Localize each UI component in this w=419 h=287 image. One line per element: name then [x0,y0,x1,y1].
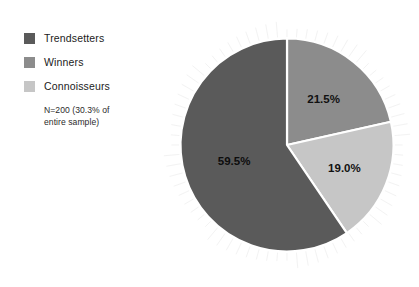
legend-swatch-trendsetters [24,33,35,44]
sample-size-line-2: entire sample) [44,116,174,128]
slice-value-trendsetters: 59.5% [218,155,251,167]
sample-size-annotation: N=200 (30.3% of entire sample) [44,104,174,128]
legend-label-connoisseurs: Connoisseurs [44,81,110,92]
sample-size-line-1: N=200 (30.3% of [44,104,174,116]
pie-slices [180,39,393,252]
pie-chart-figure: Trendsetters Winners Connoisseurs N=200 … [0,0,419,287]
pie-graphic: 21.5%19.0%59.5% [180,38,394,252]
legend-label-winners: Winners [44,57,84,68]
pie-svg: 21.5%19.0%59.5% [180,38,394,252]
legend-item-connoisseurs[interactable]: Connoisseurs [24,75,174,97]
legend-item-trendsetters[interactable]: Trendsetters [24,27,174,49]
legend-swatch-winners [24,57,35,68]
slice-value-winners: 21.5% [307,93,340,105]
legend-label-trendsetters: Trendsetters [44,33,104,44]
legend-swatch-connoisseurs [24,81,35,92]
slice-value-connoisseurs: 19.0% [328,162,361,174]
chart-legend: Trendsetters Winners Connoisseurs N=200 … [24,27,174,128]
legend-item-winners[interactable]: Winners [24,51,174,73]
